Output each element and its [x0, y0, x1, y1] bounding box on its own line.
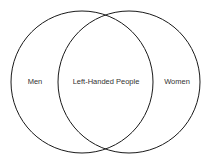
intersection-label: Left-Handed People	[73, 77, 140, 86]
women-label: Women	[164, 77, 190, 86]
men-label: Men	[28, 77, 43, 86]
